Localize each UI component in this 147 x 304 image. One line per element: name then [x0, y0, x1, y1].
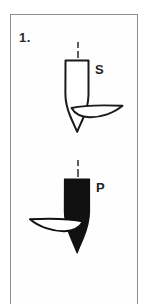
- specimen-s-label: S: [95, 63, 104, 76]
- figure-frame-border: [10, 14, 138, 304]
- specimen-p-label: P: [96, 181, 105, 194]
- figure-number-label: 1.: [19, 31, 31, 44]
